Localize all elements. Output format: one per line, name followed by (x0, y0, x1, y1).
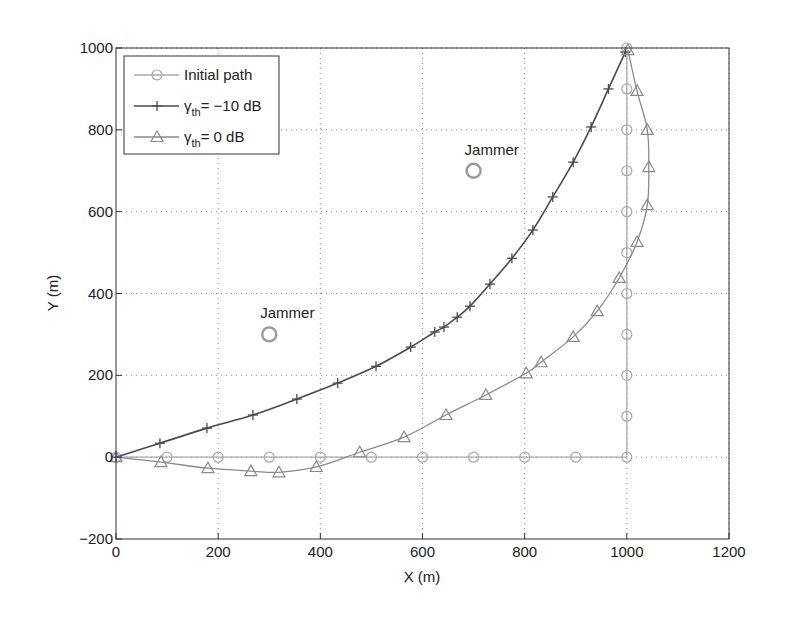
x-tick-label: 200 (206, 543, 231, 560)
y-axis-label: Y (m) (44, 275, 61, 311)
x-tick-label: 1200 (712, 543, 745, 560)
y-tick-label: 0 (105, 448, 113, 465)
y-tick-label: 1000 (80, 39, 113, 56)
x-tick-label: 400 (308, 543, 333, 560)
legend: Initial pathγth= −10 dBγth= 0 dB (124, 56, 279, 154)
legend-label: Initial path (184, 66, 252, 83)
y-tick-label: 200 (88, 366, 113, 383)
y-tick-label: 800 (88, 121, 113, 138)
path-chart: JammerJammer 020040060080010001200−20002… (0, 0, 799, 626)
y-tick-label: 600 (88, 203, 113, 220)
x-tick-label: 600 (410, 543, 435, 560)
y-tick-label: 400 (88, 285, 113, 302)
y-tick-label: −200 (79, 530, 113, 547)
jammer-label: Jammer (260, 304, 314, 321)
x-tick-label: 1000 (610, 543, 643, 560)
x-tick-label: 0 (112, 543, 120, 560)
x-tick-label: 800 (512, 543, 537, 560)
jammer-label: Jammer (465, 141, 519, 158)
x-axis-label: X (m) (404, 568, 441, 585)
